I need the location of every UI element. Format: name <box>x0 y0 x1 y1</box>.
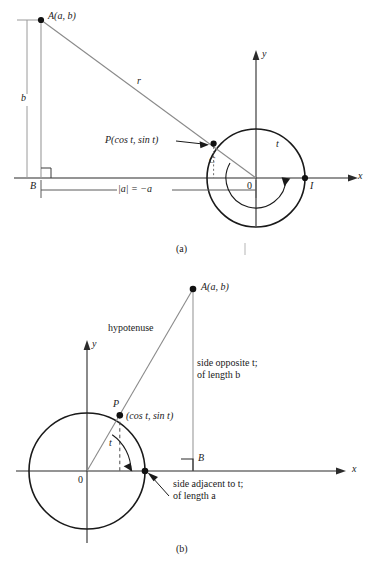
panel-b-label-origin: 0 <box>78 474 83 486</box>
panel-b-label-side-adjacent-line2: of length a <box>173 490 243 502</box>
panel-a-label-angle-t: t <box>276 138 279 150</box>
panel-b-point-A <box>190 286 197 293</box>
panel-b-label-angle-t: t <box>109 437 112 449</box>
panel-b-right-angle-marker <box>181 459 193 471</box>
panel-b-label-side-opposite: side opposite t; of length b <box>197 357 258 380</box>
panel-a-angle-arrowhead <box>282 177 291 186</box>
panel-b-x-axis <box>16 468 346 475</box>
panel-a-label-point-C: C <box>209 155 215 167</box>
panel-a-point-I <box>302 175 308 181</box>
panel-a-caption: (a) <box>176 243 187 254</box>
panel-b-label-point-B: B <box>198 452 204 464</box>
panel-a-label-point-B: B <box>30 180 36 192</box>
panel-b-caption: (b) <box>176 543 188 554</box>
panel-b-label-side-adjacent-line1: side adjacent to t; <box>173 478 243 490</box>
panel-b-label-point-P-coords-text: (cos t, sin t) <box>126 410 173 421</box>
panel-b-adjacent-leader <box>148 472 170 496</box>
panel-b-label-hypotenuse: hypotenuse <box>108 322 154 334</box>
panel-b-point-P <box>117 412 124 419</box>
panel-a-p-leader <box>176 141 209 148</box>
panel-a-label-point-A: A(a, b) <box>48 10 76 22</box>
panel-b-label-point-P-name: P <box>113 398 119 410</box>
panel-b-y-axis <box>84 340 91 543</box>
panel-b-label-x-axis: x <box>352 463 356 475</box>
panel-a-label-point-I: I <box>310 180 313 192</box>
panel-a-label-y-axis: y <box>262 48 266 60</box>
panel-a-right-angle-marker <box>41 168 51 178</box>
panel-b-label-side-adjacent: side adjacent to t; of length a <box>173 478 243 501</box>
panel-a-label-base-measure: |a| = −a <box>118 183 152 195</box>
panel-a-label-origin: 0 <box>247 180 252 192</box>
panel-b-label-side-opposite-line2: of length b <box>197 369 258 381</box>
panel-a-point-A <box>38 17 44 23</box>
panel-a-label-b: b <box>21 92 26 104</box>
panel-a-point-P <box>211 141 217 147</box>
panel-b-label-point-P-coords: (cos t, sin t) <box>126 410 173 422</box>
panel-b-label-y-axis: y <box>92 338 96 350</box>
panel-b-label-point-A: A(a, b) <box>201 281 229 293</box>
panel-a-label-point-P-text: P(cos t, sin t) <box>105 134 158 145</box>
panel-b-label-side-opposite-line1: side opposite t; <box>197 357 258 369</box>
panel-b-hypotenuse <box>87 289 193 471</box>
panel-a-label-r: r <box>137 75 141 87</box>
panel-a-y-axis <box>253 50 260 226</box>
panel-a-segment-r <box>41 20 256 178</box>
panel-a-label-x-axis: x <box>358 170 362 182</box>
panel-b-point-circle-x <box>142 468 149 475</box>
panel-a-label-point-P: P(cos t, sin t) <box>105 134 158 146</box>
